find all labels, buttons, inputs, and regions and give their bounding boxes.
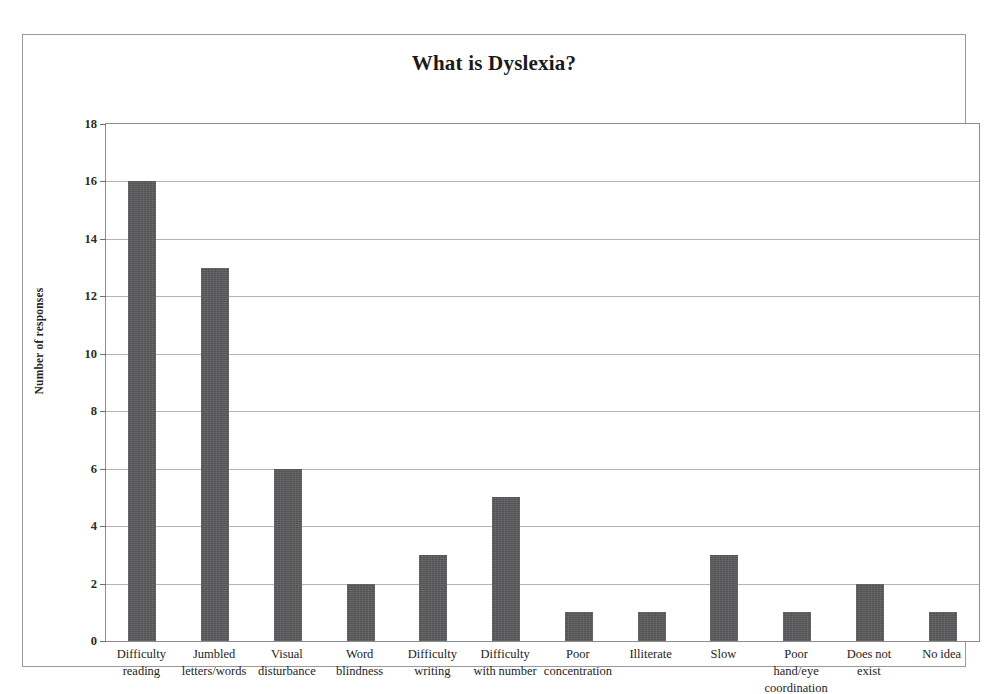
bar[interactable] [347,584,375,641]
bar[interactable] [419,555,447,641]
x-axis-label-line: No idea [897,646,986,663]
bar[interactable] [710,555,738,641]
y-tick-label: 14 [85,231,98,246]
bar-slot [615,124,688,641]
bar-slot [252,124,325,641]
y-tick-label: 16 [85,174,98,189]
y-axis-title: Number of responses [33,111,45,571]
bar-slot [470,124,543,641]
figure-frame: What is Dyslexia? Number of responses 18… [22,34,966,667]
bar[interactable] [128,181,156,641]
bar-slot [834,124,907,641]
x-axis-label-line: coordination [752,680,841,694]
bar-slot [688,124,761,641]
bar-slot [543,124,616,641]
y-tick-label: 10 [85,346,98,361]
bar-slot [397,124,470,641]
y-tick-label: 18 [85,117,98,132]
bar[interactable] [638,612,666,641]
chart-title: What is Dyslexia? [23,51,965,76]
y-tick-label: 4 [91,519,97,534]
bar-slot [906,124,979,641]
bar-slot [179,124,252,641]
x-axis-labels: DifficultyreadingJumbledletters/wordsVis… [105,646,978,694]
bar[interactable] [492,497,520,641]
bar[interactable] [929,612,957,641]
x-axis-label-line: exist [825,663,914,680]
y-tick-label: 2 [91,576,97,591]
x-axis-label-line: concentration [534,663,623,680]
bar-slot [106,124,179,641]
bar-slot [324,124,397,641]
x-axis-label: No idea [897,646,986,663]
bar-slot [761,124,834,641]
y-tick-label: 8 [91,404,97,419]
y-tick-label: 12 [85,289,98,304]
bar[interactable] [201,268,229,641]
bar[interactable] [856,584,884,641]
bars-layer [106,124,979,641]
y-tick-mark [100,641,106,642]
bar[interactable] [565,612,593,641]
bar[interactable] [274,469,302,641]
bar[interactable] [783,612,811,641]
y-tick-label: 6 [91,461,97,476]
plot-area: 181614121086420 [105,123,980,642]
